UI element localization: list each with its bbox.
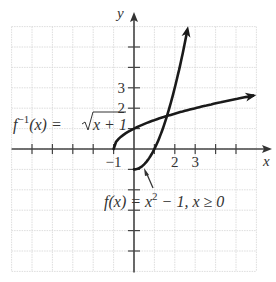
svg-text:f(x) = x2 − 1, x ≥ 0: f(x) = x2 − 1, x ≥ 0	[104, 190, 224, 211]
graph: −12323 y x f−1(x) = x + 1 f(x) = x2 − 1,…	[0, 0, 276, 282]
x-tick-label: 2	[171, 154, 179, 170]
x-tick-label: 3	[191, 154, 199, 170]
y-tick-label: 3	[118, 80, 126, 96]
pointer-arrow-head	[144, 168, 149, 176]
inverse-argument: (x) =	[29, 116, 62, 134]
svg-text:f−1(x) =: f−1(x) =	[13, 113, 62, 134]
x-tick-label: −1	[106, 154, 122, 170]
y-tick-label: 2	[118, 100, 126, 116]
inverse-radicand: x + 1	[92, 116, 127, 133]
f-suffix: − 1, x ≥ 0	[158, 193, 225, 210]
axes	[12, 12, 272, 272]
inverse-function-label: f−1(x) = x + 1	[13, 112, 127, 134]
inverse-superscript: −1	[17, 113, 29, 125]
x-axis-label: x	[262, 153, 270, 169]
f-prefix: f(x) = x	[104, 193, 152, 211]
curves	[114, 26, 257, 169]
y-axis-label: y	[115, 5, 124, 21]
